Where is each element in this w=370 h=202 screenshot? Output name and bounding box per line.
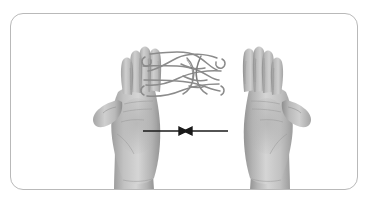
illustration-canvas: Two open palm-up hands facing the viewer… bbox=[0, 0, 370, 202]
panel-border bbox=[10, 13, 358, 190]
